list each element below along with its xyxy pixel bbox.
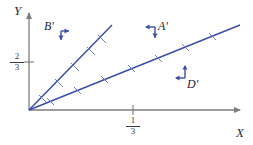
corner-arrow-right-up-icon xyxy=(59,29,70,40)
ray-b-prime xyxy=(29,25,112,110)
y-tick-numerator: 2 xyxy=(10,52,24,61)
corner-arrow-left-down-icon xyxy=(145,25,158,38)
coordinate-plot-figure: Y X 2 3 1 3 B' A' D' xyxy=(0,0,253,145)
corner-arrow-left-up-icon xyxy=(175,65,188,80)
marker-label-b-prime: B' xyxy=(44,20,54,32)
x-tick-denominator: 3 xyxy=(126,127,140,136)
y-axis-label: Y xyxy=(14,4,21,17)
x-tick-label-one-third: 1 3 xyxy=(126,116,140,136)
y-tick-denominator: 3 xyxy=(10,63,24,72)
marker-label-a-prime: A' xyxy=(158,20,168,32)
y-tick-label-two-thirds: 2 3 xyxy=(10,52,24,72)
marker-label-d-prime: D' xyxy=(187,78,198,90)
x-tick-numerator: 1 xyxy=(126,116,140,125)
x-axis-label: X xyxy=(236,126,244,139)
